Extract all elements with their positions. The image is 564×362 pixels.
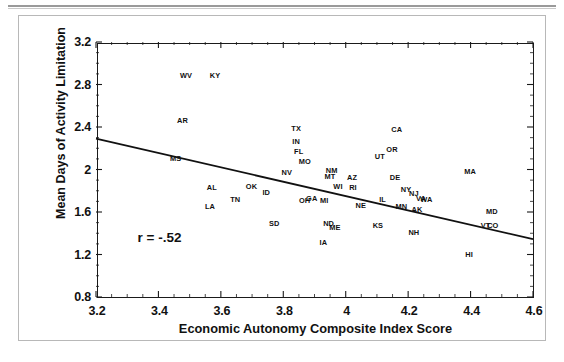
x-tick-label: 3.2 [77, 304, 117, 318]
data-point-label: LA [205, 203, 215, 210]
figure-container: Mean Days of Activity Limitation Economi… [18, 15, 546, 341]
x-axis-title: Economic Autonomy Composite Index Score [97, 321, 534, 336]
x-tick-label: 4.4 [452, 304, 492, 318]
data-point-label: MI [320, 197, 328, 204]
data-point-label: AL [207, 184, 217, 191]
data-point-label: HI [465, 251, 473, 258]
data-point-label: UT [375, 154, 385, 161]
x-tick-label: 3.4 [139, 304, 179, 318]
data-point-label: OR [386, 147, 397, 154]
x-tick-label: 4.2 [389, 304, 429, 318]
y-tick-label: 2.8 [45, 78, 91, 92]
x-tick-label: 4.6 [514, 304, 554, 318]
data-point-label: AR [177, 117, 188, 124]
data-point-label: TN [230, 197, 240, 204]
y-tick-label: 2.4 [45, 120, 91, 134]
data-point-label: CO [487, 222, 498, 229]
data-point-label: RI [349, 184, 357, 191]
data-point-label: MA [464, 168, 476, 175]
data-point-label: MD [486, 209, 498, 216]
data-point-label: WA [420, 196, 432, 203]
data-point-label: WI [333, 183, 342, 190]
data-point-label: MN [395, 203, 407, 210]
data-point-label: MO [299, 158, 311, 165]
page-header-rule-secondary [8, 8, 556, 9]
y-tick-label: 2 [45, 163, 91, 177]
data-point-label: KS [373, 222, 383, 229]
page-header-rule [8, 5, 556, 7]
data-point-label: TX [291, 125, 301, 132]
y-tick-label: 1.2 [45, 248, 91, 262]
data-point-label: IL [379, 196, 386, 203]
x-tick-label: 4 [327, 304, 367, 318]
data-point-label: AZ [347, 175, 357, 182]
y-tick-label: 0.8 [45, 290, 91, 304]
data-point-label: NH [408, 229, 419, 236]
data-point-label: MT [324, 174, 335, 181]
data-point-label: CA [391, 126, 402, 133]
data-point-label: OK [246, 183, 257, 190]
data-point-label: FL [294, 148, 303, 155]
data-point-label: ID [262, 189, 270, 196]
data-point-label: IA [320, 240, 328, 247]
correlation-annotation: r = -.52 [138, 230, 182, 245]
data-point-label: ME [329, 225, 340, 232]
data-point-label: AK [412, 206, 423, 213]
x-tick-label: 3.6 [202, 304, 242, 318]
y-tick-label: 3.2 [45, 35, 91, 49]
data-point-label: SD [269, 220, 279, 227]
data-point-label: NV [282, 169, 292, 176]
y-tick-label: 1.6 [45, 205, 91, 219]
data-point-label: GA [306, 195, 317, 202]
data-point-label: WV [180, 73, 192, 80]
data-point-label: DE [390, 174, 400, 181]
x-tick-label: 3.8 [264, 304, 304, 318]
data-point-label: KY [210, 73, 220, 80]
data-point-label: NE [356, 202, 366, 209]
data-point-label: MS [170, 156, 181, 163]
data-point-label: IN [292, 138, 300, 145]
